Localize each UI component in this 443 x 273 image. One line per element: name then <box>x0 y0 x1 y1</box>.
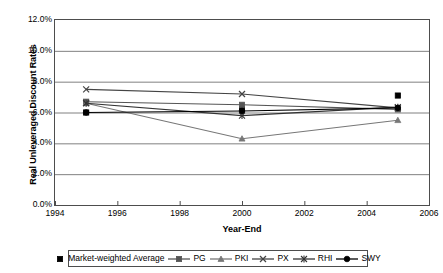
legend-marker-circle-icon <box>336 254 358 264</box>
legend-item-px[interactable]: PX <box>252 254 288 264</box>
y-tick-label: 10.0% <box>18 46 52 55</box>
data-point-circle-marker <box>345 256 351 262</box>
legend-item-market-weighted-average[interactable]: Market-weighted Average <box>55 254 164 264</box>
legend-label: PG <box>193 254 205 263</box>
legend-item-pki[interactable]: PKI <box>210 254 249 264</box>
x-tick-label: 1996 <box>97 208 137 218</box>
legend-item-swy[interactable]: SWY <box>336 254 380 264</box>
legend-marker-triangle-icon <box>210 254 232 264</box>
data-point-square-marker <box>58 256 63 261</box>
x-tick-label: 2000 <box>222 208 262 218</box>
legend-marker-asterisk-icon <box>293 254 315 264</box>
x-tick-label: 2006 <box>409 208 443 218</box>
x-axis-tick-labels: 1994199619982000200220042006 <box>54 208 430 222</box>
legend-label: PX <box>277 254 288 263</box>
data-point-circle-marker <box>395 105 401 111</box>
data-point-square-marker <box>395 93 400 98</box>
y-tick-label: 4.0% <box>18 138 52 147</box>
plot-svg <box>55 20 429 205</box>
legend-item-rhi[interactable]: RHI <box>293 254 333 264</box>
legend-marker-x-icon <box>252 254 274 264</box>
legend-label: RHI <box>318 254 333 263</box>
x-axis-title: Year-End <box>54 224 430 235</box>
legend-label: PKI <box>235 254 249 263</box>
y-tick-label: 6.0% <box>18 108 52 117</box>
legend-label: Market-weighted Average <box>68 254 164 263</box>
data-point-square-marker <box>177 256 182 261</box>
y-tick-label: 2.0% <box>18 169 52 178</box>
plot-area <box>54 19 430 206</box>
legend-item-pg[interactable]: PG <box>168 254 205 264</box>
x-tick-label: 2002 <box>284 208 324 218</box>
x-tick-label: 2004 <box>347 208 387 218</box>
legend-marker-square-icon <box>168 254 190 264</box>
data-point-circle-marker <box>239 108 245 114</box>
y-tick-label: 12.0% <box>18 15 52 24</box>
x-tick-label: 1994 <box>35 208 75 218</box>
y-tick-label: 8.0% <box>18 77 52 86</box>
legend-label: SWY <box>361 254 380 263</box>
y-axis-tick-labels: 0.0%2.0%4.0%6.0%8.0%10.0%12.0% <box>0 0 52 273</box>
legend-marker-square-icon <box>55 254 65 264</box>
data-point-square-marker <box>239 102 244 107</box>
x-tick-label: 1998 <box>160 208 200 218</box>
data-point-circle-marker <box>83 110 89 116</box>
chart-legend: Market-weighted AveragePGPKIPXRHISWY <box>68 250 368 267</box>
